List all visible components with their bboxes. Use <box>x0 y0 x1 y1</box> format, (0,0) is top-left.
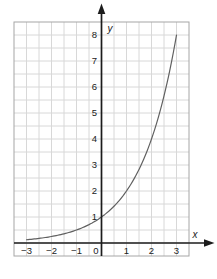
y-tick-label: 8 <box>92 29 97 40</box>
x-tick-label: 1 <box>124 245 129 256</box>
y-tick-label: 3 <box>92 159 97 170</box>
y-tick-label: 2 <box>92 185 97 196</box>
y-tick-label: 4 <box>92 133 97 144</box>
x-tick-label: 2 <box>149 245 154 256</box>
exponential-graph-figure: −3−2−1012312345678yx <box>0 0 217 279</box>
x-axis-label: x <box>192 229 199 240</box>
x-tick-label: −1 <box>71 245 82 256</box>
x-tick-label: 3 <box>174 245 179 256</box>
y-tick-label: 7 <box>92 55 97 66</box>
y-tick-label: 5 <box>92 107 97 118</box>
y-tick-label: 6 <box>92 81 97 92</box>
x-tick-label: 0 <box>93 245 98 256</box>
y-tick-label: 1 <box>92 211 97 222</box>
y-axis-label: y <box>107 23 114 34</box>
chart-canvas: −3−2−1012312345678yx <box>0 0 217 279</box>
x-tick-label: −3 <box>21 245 32 256</box>
x-tick-label: −2 <box>46 245 57 256</box>
